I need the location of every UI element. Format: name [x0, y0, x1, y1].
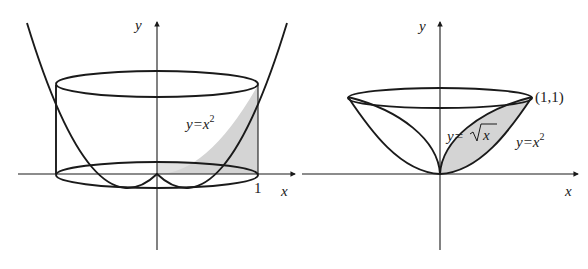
left-y-axis-label: y: [133, 17, 142, 33]
diagram-canvas: y x 1 y=x2 y x (1,1) y= x y=x2: [0, 0, 588, 269]
left-x-axis-label: x: [280, 183, 288, 199]
left-tick-label-1: 1: [254, 180, 262, 196]
right-point-label: (1,1): [535, 89, 564, 106]
svg-text:x: x: [482, 127, 490, 143]
svg-text:y=: y=: [445, 128, 464, 144]
right-parabola-label: y=x2: [514, 131, 544, 150]
right-y-axis-label: y: [417, 18, 426, 34]
right-x-axis-label: x: [564, 183, 572, 199]
right-figure: y x (1,1) y= x y=x2: [302, 18, 578, 250]
left-figure: y x 1 y=x2: [18, 17, 295, 250]
left-curve-label: y=x2: [184, 113, 214, 132]
